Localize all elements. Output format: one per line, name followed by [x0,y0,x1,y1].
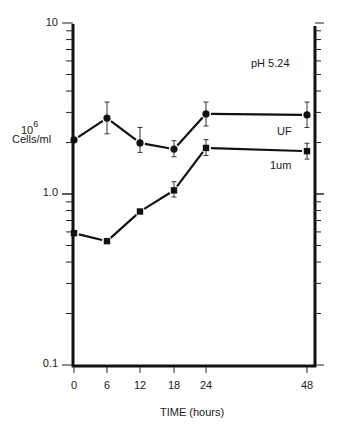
y-axis-left-ticks [62,23,73,365]
y-tick-label-10: 10 [22,16,58,28]
square-marker [137,208,143,214]
series-line-segment [211,114,302,115]
x-tick-label: 0 [59,379,89,391]
circle-marker [303,111,310,118]
square-marker [304,148,310,154]
series-line-segment [78,121,103,137]
y-axis-label-exponent: 6 [33,119,38,129]
series-line-segment [145,144,169,148]
series-line-segment [177,118,202,146]
x-tick-label: 6 [92,379,122,391]
square-marker [203,145,209,151]
series-line-segment [177,152,203,186]
circle-marker [103,114,110,121]
series-layer [70,102,310,244]
square-marker [71,230,77,236]
series-line-segment [111,121,136,140]
y-axis-label-unit: Cells/ml [12,133,51,145]
circle-marker [202,110,209,117]
x-tick-label: 18 [159,379,189,391]
y-tick-label-0-1: 0.1 [22,357,58,369]
y-axis-right-ticks [315,23,324,365]
circle-marker [70,136,77,143]
y-tick-label-1: 1.0 [22,186,58,198]
ph-annotation: pH 5.24 [251,57,290,69]
x-tick-label: 12 [125,379,155,391]
series-line-segment [111,215,137,238]
series-label-1um: 1um [270,159,291,171]
series-label-uf: UF [277,125,292,137]
x-tick-label: 24 [191,379,221,391]
series-line-segment [79,234,102,240]
circle-marker [136,139,143,146]
square-marker [104,238,110,244]
circle-marker [170,146,177,153]
x-tick-label: 48 [292,379,322,391]
x-axis-label: TIME (hours) [160,406,224,418]
square-marker [171,187,177,193]
series-line-segment [211,148,302,151]
series-line-segment [144,193,170,209]
